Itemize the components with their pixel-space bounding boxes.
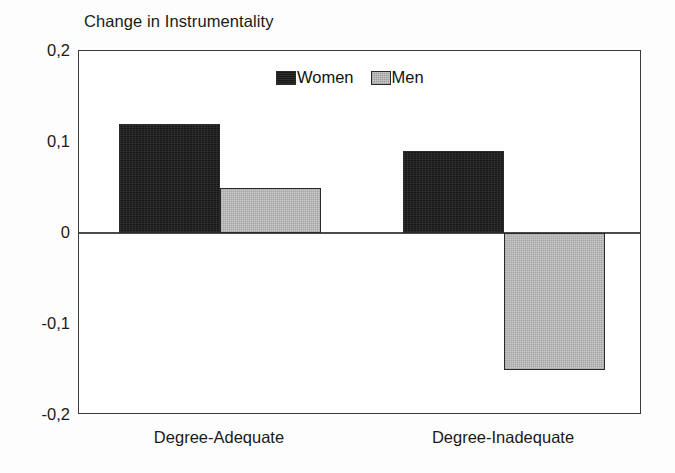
y-axis-tick-label: 0,1 [8,132,70,151]
y-axis-tick-label: 0 [8,223,70,242]
x-axis-tick-label: Degree-Inadequate [432,428,574,447]
plot-area [78,50,641,414]
y-axis-tick-label: 0,2 [8,41,70,60]
bars-layer [79,51,640,413]
chart-figure: Change in Instrumentality 0,20,10-0,1-0,… [0,0,675,473]
y-axis-tick-label: -0,2 [8,405,70,424]
chart-legend: WomenMen [276,68,424,87]
x-axis-tick-label: Degree-Adequate [154,428,284,447]
bar-women-degree-adequate [119,124,220,233]
legend-label: Women [297,68,354,87]
legend-label: Men [392,68,424,87]
y-axis-tick-label: -0,1 [8,314,70,333]
chart-title: Change in Instrumentality [84,12,274,31]
bar-men-degree-adequate [220,188,321,234]
legend-entry-men: Men [371,68,424,87]
women-swatch-icon [276,71,296,85]
legend-entry-women: Women [276,68,354,87]
y-axis: 0,20,10-0,1-0,2 [0,0,70,473]
bar-men-degree-inadequate [504,233,605,370]
bar-women-degree-inadequate [403,151,504,233]
men-swatch-icon [371,71,391,85]
